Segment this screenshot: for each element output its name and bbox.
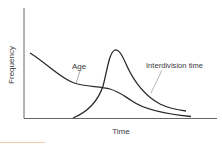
y-axis-label: Frequency <box>7 46 16 84</box>
age-label: Age <box>72 62 87 71</box>
interdivision-time-label: Interdivision time <box>146 61 203 70</box>
chart: Age Interdivision time Frequency Time <box>0 0 222 145</box>
age-leader-line <box>76 71 80 84</box>
interdivision-leader-line <box>151 70 162 93</box>
x-axis-label: Time <box>112 127 130 136</box>
